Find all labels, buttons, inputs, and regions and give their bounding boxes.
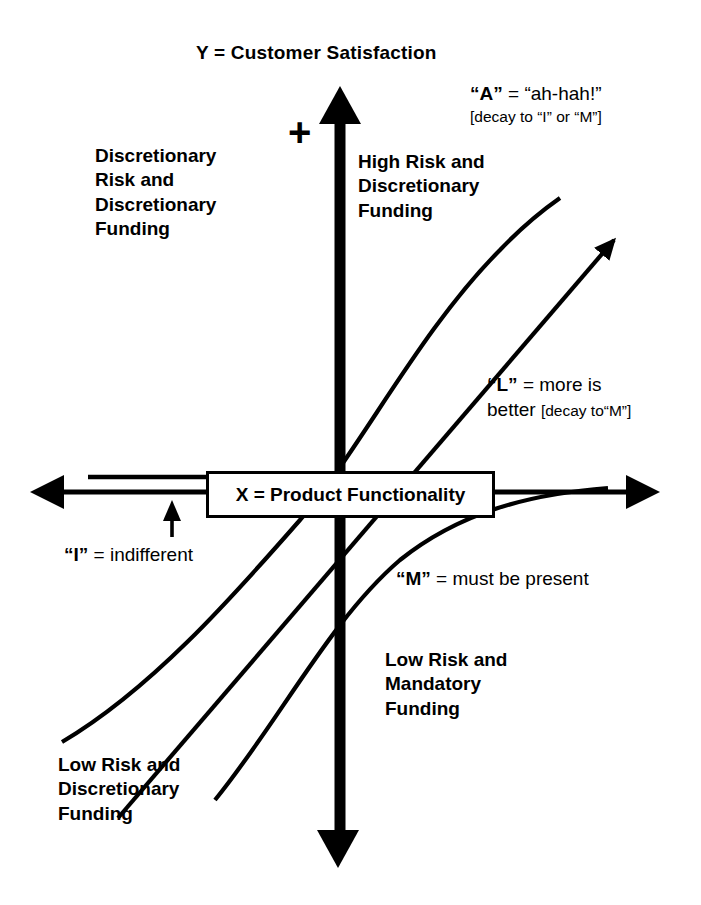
label-must-be-key: “M” <box>396 568 431 589</box>
positive-sign: + <box>288 112 311 152</box>
quadrant-top-left: Discretionary Risk and Discretionary Fun… <box>95 144 216 241</box>
label-attractive: “A” = “ah-hah!” [decay to “I” or “M”] <box>470 82 602 127</box>
label-linear-text: = more is <box>518 374 602 395</box>
label-attractive-key: “A” <box>470 83 503 104</box>
quadrant-bottom-right: Low Risk and Mandatory Funding <box>385 648 507 721</box>
label-linear-text2: better <box>487 399 541 420</box>
label-linear: “L” = more is better [decay to“M”] <box>487 373 631 422</box>
label-attractive-text: = “ah-hah!” <box>503 83 602 104</box>
x-axis-label: X = Product Functionality <box>236 484 466 506</box>
indifferent-pointer <box>163 500 181 537</box>
label-must-be: “M” = must be present <box>396 567 589 592</box>
y-axis-arrow-down <box>317 830 359 868</box>
label-indifferent: “I” = indifferent <box>64 543 193 568</box>
y-axis-label: Y = Customer Satisfaction <box>196 42 437 64</box>
label-attractive-note: [decay to “I” or “M”] <box>470 107 602 127</box>
label-indifferent-key: “I” <box>64 544 88 565</box>
quadrant-bottom-left: Low Risk and Discretionary Funding <box>58 753 180 826</box>
curve-linear-l <box>118 240 614 818</box>
label-must-be-text: = must be present <box>431 568 589 589</box>
kano-diagram: X = Product Functionality Y = Customer S… <box>0 0 701 905</box>
curve-must-be-m <box>215 488 608 800</box>
x-axis-arrow-right <box>626 475 660 509</box>
label-indifferent-text: = indifferent <box>88 544 193 565</box>
quadrant-top-right: High Risk and Discretionary Funding <box>358 150 485 223</box>
x-axis-arrow-left <box>30 475 64 509</box>
x-axis-label-box: X = Product Functionality <box>206 471 495 518</box>
label-linear-note: [decay to“M”] <box>541 402 631 419</box>
y-axis-arrow-up <box>319 86 361 124</box>
label-linear-key: “L” <box>487 374 518 395</box>
